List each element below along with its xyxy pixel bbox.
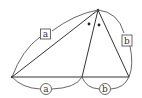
label-base-a: a — [41, 84, 52, 95]
side-left — [12, 10, 98, 77]
label-side-a: a — [41, 29, 51, 39]
angle-mark-left — [88, 23, 91, 26]
svg-text:b: b — [102, 84, 108, 94]
angle-mark-right — [98, 24, 101, 27]
svg-text:a: a — [43, 84, 49, 94]
label-side-b: b — [122, 35, 132, 46]
angle-bisector-diagram: a b a b — [0, 0, 142, 98]
label-base-b: b — [100, 84, 111, 95]
svg-text:b: b — [124, 36, 130, 46]
svg-text:a: a — [43, 29, 49, 39]
